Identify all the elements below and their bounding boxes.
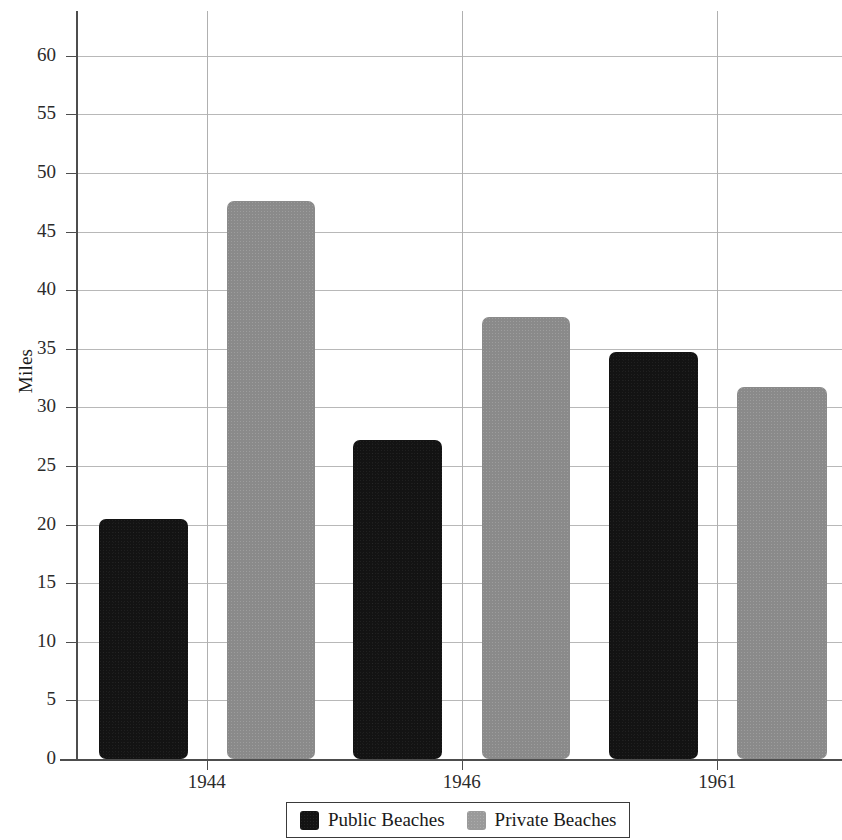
y-tick-mark: [66, 700, 78, 701]
legend-label-private: Private Beaches: [495, 809, 617, 831]
y-tick-label: 0: [12, 748, 56, 767]
y-tick-label: 5: [12, 689, 56, 708]
y-tick-label: 30: [12, 396, 56, 415]
gridline-vertical: [717, 11, 718, 759]
y-tick-label: 50: [12, 162, 56, 181]
y-tick-mark: [66, 349, 78, 350]
gridline-horizontal: [76, 466, 842, 467]
y-tick-mark: [66, 642, 78, 643]
y-tick-label: 55: [12, 103, 56, 122]
gridline-horizontal: [76, 700, 842, 701]
legend-label-public: Public Beaches: [328, 809, 445, 831]
bar-1946-private-beaches[interactable]: [482, 317, 570, 759]
chart-legend: Public Beaches Private Beaches: [286, 802, 630, 838]
x-axis-line: [60, 759, 842, 761]
y-tick-label: 45: [12, 221, 56, 240]
gridline-horizontal: [76, 642, 842, 643]
gridline-horizontal: [76, 407, 842, 408]
bar-1944-private-beaches[interactable]: [227, 201, 315, 759]
plot-area: [76, 11, 842, 759]
y-tick-label: 35: [12, 338, 56, 357]
y-tick-label: 20: [12, 514, 56, 533]
x-tick-mark: [462, 759, 463, 770]
bar-chart-figure: Miles 051015202530354045505560 194419461…: [0, 0, 842, 840]
legend-swatch-icon-public: [300, 811, 319, 830]
gridline-horizontal: [76, 525, 842, 526]
x-tick-label: 1961: [657, 771, 777, 793]
x-tick-label: 1944: [147, 771, 267, 793]
y-tick-mark: [66, 173, 78, 174]
bar-1961-private-beaches[interactable]: [737, 387, 827, 759]
x-tick-label: 1946: [402, 771, 522, 793]
y-tick-label: 25: [12, 455, 56, 474]
y-tick-mark: [66, 759, 78, 760]
bar-1946-public-beaches[interactable]: [353, 440, 441, 759]
gridline-horizontal: [76, 349, 842, 350]
gridline-vertical: [462, 11, 463, 759]
gridline-vertical: [207, 11, 208, 759]
y-tick-mark: [66, 290, 78, 291]
y-tick-mark: [66, 525, 78, 526]
bar-1944-public-beaches[interactable]: [99, 519, 187, 759]
gridline-horizontal: [76, 290, 842, 291]
gridline-horizontal: [76, 173, 842, 174]
bar-1961-public-beaches[interactable]: [609, 352, 698, 759]
y-tick-label: 10: [12, 631, 56, 650]
legend-swatch-icon-private: [467, 811, 486, 830]
y-tick-mark: [66, 114, 78, 115]
y-tick-mark: [66, 407, 78, 408]
x-tick-mark: [207, 759, 208, 770]
legend-item-public-beaches[interactable]: Public Beaches: [300, 809, 445, 831]
x-tick-mark: [717, 759, 718, 770]
gridline-horizontal: [76, 114, 842, 115]
gridline-horizontal: [76, 583, 842, 584]
legend-item-private-beaches[interactable]: Private Beaches: [467, 809, 617, 831]
y-tick-mark: [66, 56, 78, 57]
y-tick-label: 60: [12, 45, 56, 64]
y-tick-mark: [66, 232, 78, 233]
y-tick-mark: [66, 583, 78, 584]
gridline-horizontal: [76, 56, 842, 57]
gridline-horizontal: [76, 232, 842, 233]
y-tick-label: 40: [12, 279, 56, 298]
y-tick-label: 15: [12, 572, 56, 591]
y-tick-mark: [66, 466, 78, 467]
